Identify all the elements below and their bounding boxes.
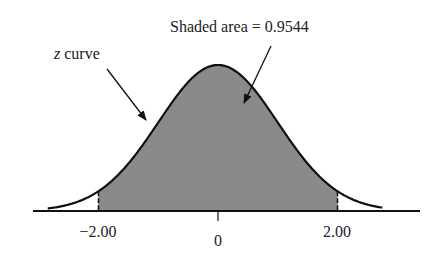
tick-label-neg2: −2.00	[79, 223, 116, 240]
normal-curve-chart: −2.00 0 2.00 z curve Shaded area = 0.954…	[0, 0, 442, 262]
z-curve-arrow	[107, 69, 146, 120]
shaded-area	[99, 65, 338, 211]
tick-label-pos2: 2.00	[323, 223, 351, 240]
tick-label-0: 0	[214, 232, 222, 249]
shaded-area-label: Shaded area = 0.9544	[170, 18, 309, 35]
z-curve-label: z curve	[53, 45, 100, 62]
